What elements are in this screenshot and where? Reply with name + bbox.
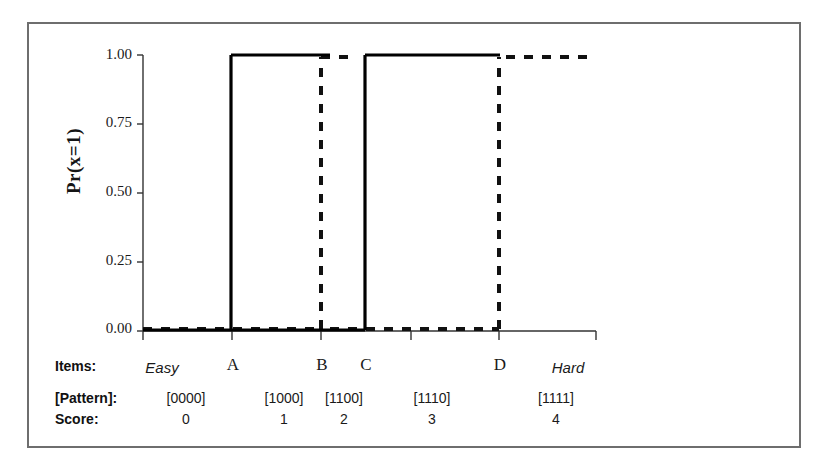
score-label-3: 3	[428, 411, 436, 427]
y-tick-label-5: 0.00	[62, 320, 132, 337]
y-tick-label-4: 0.25	[62, 252, 132, 269]
item-label-hard: Hard	[552, 359, 585, 376]
row-label-pattern: [Pattern]:	[55, 390, 117, 406]
y-tick-label-1: 1.00	[62, 46, 132, 63]
item-label-easy: Easy	[145, 359, 178, 376]
pattern-label-1: [1000]	[265, 390, 304, 406]
item-label-c: C	[360, 355, 371, 375]
row-label-score: Score:	[55, 411, 99, 427]
score-label-4: 4	[552, 411, 560, 427]
score-label-0: 0	[182, 411, 190, 427]
row-label-items: Items:	[55, 358, 96, 374]
item-label-a: A	[227, 355, 239, 375]
y-axis-title: Pr(x=1)	[63, 81, 85, 241]
figure-border	[27, 22, 801, 448]
pattern-label-3: [1110]	[414, 390, 451, 406]
item-label-d: D	[494, 355, 506, 375]
pattern-label-2: [1100]	[325, 390, 363, 406]
pattern-label-0: [0000]	[167, 390, 206, 406]
score-label-2: 2	[340, 411, 348, 427]
score-label-1: 1	[280, 411, 288, 427]
item-label-b: B	[316, 355, 327, 375]
pattern-label-4: [1111]	[538, 390, 574, 406]
y-tick-label-3: 0.50	[62, 183, 132, 200]
y-tick-label-2: 0.75	[62, 114, 132, 131]
figure-root: Pr(x=1) 1.00 0.75 0.50 0.25 0.00	[0, 0, 822, 472]
